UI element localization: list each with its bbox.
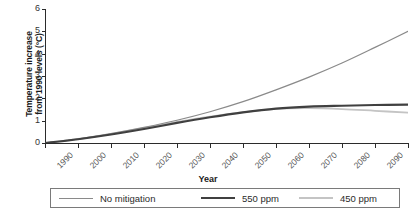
x-tick-label: 2020 <box>154 150 174 170</box>
x-tick-mark <box>243 144 244 148</box>
x-tick-mark <box>276 144 277 148</box>
x-tick-mark <box>144 144 145 148</box>
x-tick-mark <box>210 144 211 148</box>
legend-line-swatch <box>201 197 235 199</box>
x-tick-mark <box>408 144 409 148</box>
y-tick-label-text: 6 <box>30 4 40 13</box>
y-tick-label: 6 <box>28 4 40 13</box>
x-tick-label: 2030 <box>187 150 207 170</box>
x-tick-mark <box>375 144 376 148</box>
y-tick-label-text: 0 <box>30 138 40 147</box>
legend-item[interactable]: 450 ppm <box>299 189 377 207</box>
y-tick-label: 2 <box>28 93 40 102</box>
y-tick-label: 3 <box>28 71 40 80</box>
legend-item-label: 450 ppm <box>340 193 377 204</box>
legend-item-label: 550 ppm <box>242 193 279 204</box>
x-tick-label: 2080 <box>352 150 372 170</box>
chart-figure: Temperature increase from 1990 levels (°… <box>0 0 416 213</box>
y-tick-label: 0 <box>28 138 40 147</box>
x-tick-label: 2010 <box>121 150 141 170</box>
x-tick-mark <box>111 144 112 148</box>
x-tick-mark <box>309 144 310 148</box>
y-tick-label-text: 2 <box>30 93 40 102</box>
plot-area <box>45 9 408 143</box>
y-tick-label: 5 <box>28 26 40 35</box>
x-tick-mark <box>177 144 178 148</box>
y-axis-title: Temperature increase from 1990 levels (°… <box>0 0 30 150</box>
y-tick-label-text: 4 <box>30 49 40 58</box>
x-axis-title: Year <box>0 174 416 184</box>
legend-item[interactable]: 550 ppm <box>201 189 279 207</box>
x-tick-label: 2040 <box>220 150 240 170</box>
x-tick-label: 2000 <box>88 150 108 170</box>
x-tick-label: 2070 <box>319 150 339 170</box>
x-axis-line <box>45 143 409 144</box>
x-tick-mark <box>45 144 46 148</box>
legend-item-label: No mitigation <box>100 193 155 204</box>
x-tick-label: 2060 <box>286 150 306 170</box>
y-tick-label: 1 <box>28 116 40 125</box>
x-tick-label: 2050 <box>253 150 273 170</box>
chart-legend: No mitigation550 ppm450 ppm <box>50 188 400 208</box>
x-tick-label: 2090 <box>385 150 405 170</box>
x-tick-mark <box>342 144 343 148</box>
y-tick-label-text: 3 <box>30 71 40 80</box>
series-line <box>45 31 408 143</box>
y-tick-label: 4 <box>28 49 40 58</box>
legend-item[interactable]: No mitigation <box>59 189 155 207</box>
legend-line-swatch <box>299 197 333 199</box>
series-lines <box>45 9 408 143</box>
x-tick-label: 1990 <box>55 150 75 170</box>
x-tick-mark <box>78 144 79 148</box>
y-tick-label-text: 1 <box>30 116 40 125</box>
series-line <box>45 108 408 143</box>
legend-line-swatch <box>59 198 93 199</box>
y-tick-label-text: 5 <box>30 26 40 35</box>
